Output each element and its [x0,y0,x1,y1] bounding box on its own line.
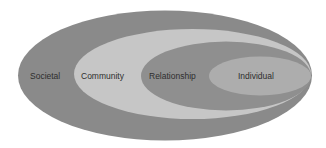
community-label: Community [81,71,125,81]
nested-ellipse-diagram: Societal Community Relationship Individu… [0,0,326,148]
relationship-label: Relationship [149,71,196,81]
individual-label: Individual [238,71,274,81]
societal-label: Societal [30,71,60,81]
